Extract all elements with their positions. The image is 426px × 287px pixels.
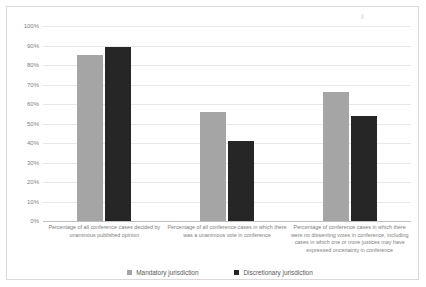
bar[interactable] (105, 47, 131, 221)
y-axis-tick-label: 60% (27, 101, 39, 107)
bar[interactable] (77, 55, 103, 221)
bar-group (288, 26, 411, 221)
bar[interactable] (323, 92, 349, 221)
y-axis-tick-label: 80% (27, 62, 39, 68)
bars-layer (43, 26, 411, 221)
legend-swatch-icon (127, 270, 132, 275)
chart-legend: Mandatory jurisdictionDiscretionary juri… (7, 269, 426, 276)
legend-swatch-icon (234, 270, 239, 275)
y-axis-tick-label: 90% (27, 43, 39, 49)
plot-area: 100%90%80%70%60%50%40%30%20%10%0% (43, 26, 411, 221)
bar[interactable] (200, 112, 226, 221)
image-artifact-speck (361, 14, 364, 19)
y-axis-tick-label: 100% (24, 23, 39, 29)
y-axis-tick-label: 30% (27, 160, 39, 166)
category-label: Percentage of conference cases in which … (288, 224, 411, 254)
bar-group (43, 26, 166, 221)
legend-label: Discretionary jurisdiction (243, 269, 312, 276)
legend-item[interactable]: Discretionary jurisdiction (234, 269, 312, 276)
legend-item[interactable]: Mandatory jurisdiction (127, 269, 198, 276)
category-label: Percentage of all conference cases decid… (43, 224, 166, 239)
bar[interactable] (351, 116, 377, 221)
chart-frame: 100%90%80%70%60%50%40%30%20%10%0% Percen… (6, 6, 419, 280)
y-axis-tick-label: 40% (27, 140, 39, 146)
category-label: Percentage of all conference cases in wh… (166, 224, 289, 239)
y-axis-tick-label: 0% (30, 218, 39, 224)
y-axis-tick-label: 70% (27, 82, 39, 88)
bar[interactable] (228, 141, 254, 221)
legend-label: Mandatory jurisdiction (136, 269, 198, 276)
bar-group (166, 26, 289, 221)
gridline (43, 221, 411, 222)
y-axis-tick-label: 20% (27, 179, 39, 185)
y-axis-tick-label: 10% (27, 199, 39, 205)
y-axis-tick-label: 50% (27, 121, 39, 127)
category-axis-labels: Percentage of all conference cases decid… (43, 224, 411, 264)
